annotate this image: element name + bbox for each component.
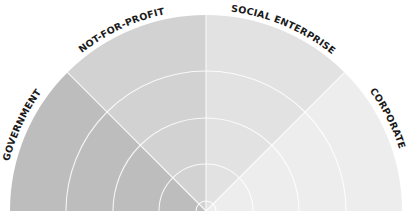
semicircle-chart: GOVERNMENT NOT-FOR-PROFIT SOCIAL ENTERPR… [0,0,410,224]
sector-diagram: GOVERNMENT NOT-FOR-PROFIT SOCIAL ENTERPR… [0,0,410,224]
